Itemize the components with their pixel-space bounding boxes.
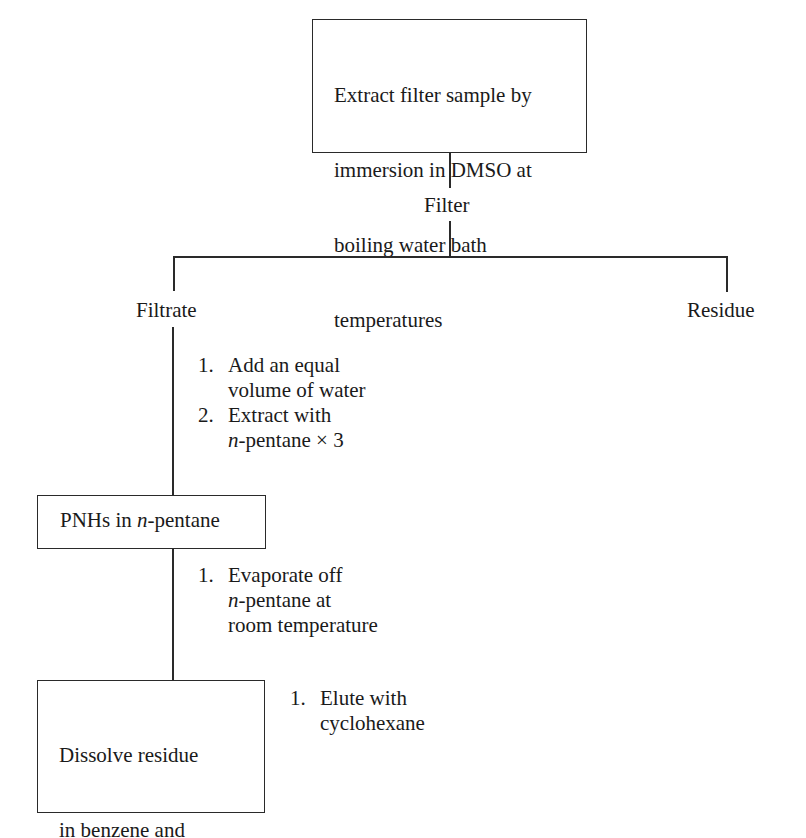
pnhs-prefix: PNHs in (60, 508, 137, 532)
connector-split-residue (726, 256, 728, 292)
pnhs-step-list: 1. Evaporate off n-pentane at room tempe… (198, 563, 378, 638)
connector-extract-filter (449, 152, 451, 188)
extract-line-2: immersion in DMSO at (334, 158, 532, 183)
dissolve-step-list: 1. Elute with cyclohexane (290, 686, 425, 736)
step-number: 1. (198, 353, 214, 378)
dissolve-line-2: in benzene and (59, 818, 212, 838)
connector-filtrate-pnhs (172, 327, 174, 496)
italic-n: n (228, 588, 239, 612)
split-horizontal-line (173, 256, 728, 258)
step-text-rest: -pentane × 3 (239, 428, 344, 452)
step-text-line: Evaporate off (228, 563, 378, 588)
step-text-line: Extract with (228, 403, 366, 428)
connector-split-filtrate (173, 256, 175, 291)
dissolve-text: Dissolve residue in benzene and chromato… (59, 693, 212, 838)
extract-step-box: Extract filter sample by immersion in DM… (312, 19, 587, 153)
filter-label: Filter (424, 193, 470, 218)
step-text-rest: -pentane at (239, 588, 332, 612)
step-text-line: Elute with (320, 686, 425, 711)
dissolve-box: Dissolve residue in benzene and chromato… (37, 680, 265, 813)
step-number: 1. (290, 686, 306, 711)
italic-n: n (228, 428, 239, 452)
filtrate-step-1: 1. Add an equal volume of water (198, 353, 366, 403)
step-text-line: n-pentane at (228, 588, 378, 613)
step-number: 2. (198, 403, 214, 428)
filtrate-step-list: 1. Add an equal volume of water 2. Extra… (198, 353, 366, 453)
pnhs-step-1: 1. Evaporate off n-pentane at room tempe… (198, 563, 378, 638)
pnhs-suffix: -pentane (148, 508, 220, 532)
extract-line-4: temperatures (334, 308, 532, 333)
step-text-line: volume of water (228, 378, 366, 403)
extract-line-3: boiling water bath (334, 233, 532, 258)
step-text-line: cyclohexane (320, 711, 425, 736)
step-text-line: n-pentane × 3 (228, 428, 366, 453)
filtrate-label: Filtrate (136, 298, 197, 323)
residue-label: Residue (687, 298, 755, 323)
connector-pnhs-dissolve (172, 549, 174, 681)
pnhs-box: PNHs in n-pentane (37, 495, 266, 549)
connector-filter-split (449, 221, 451, 257)
pnhs-text: PNHs in n-pentane (60, 508, 220, 533)
step-text-line: room temperature (228, 613, 378, 638)
italic-n: n (137, 508, 148, 532)
extract-line-1: Extract filter sample by (334, 83, 532, 108)
step-text-line: Add an equal (228, 353, 366, 378)
dissolve-line-1: Dissolve residue (59, 743, 212, 768)
step-number: 1. (198, 563, 214, 588)
dissolve-step-1: 1. Elute with cyclohexane (290, 686, 425, 736)
filtrate-step-2: 2. Extract with n-pentane × 3 (198, 403, 366, 453)
